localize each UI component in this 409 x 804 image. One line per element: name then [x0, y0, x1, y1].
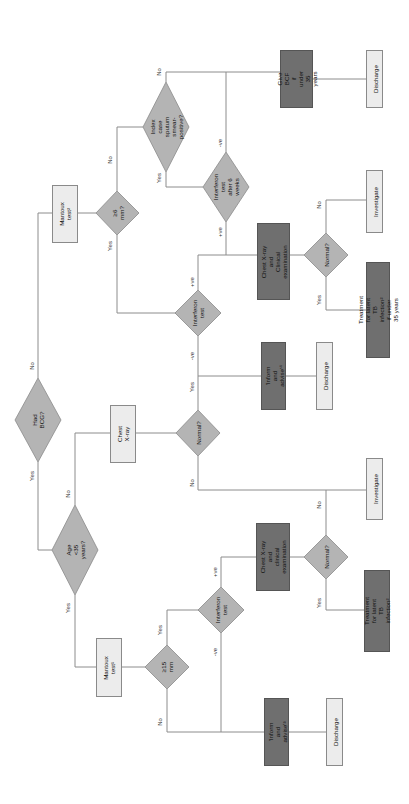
- box-label: Mantoux test¹: [102, 656, 116, 680]
- box-label: Chest X-ray and Clinical examination: [260, 245, 288, 278]
- edge-bcg-no: [38, 213, 52, 378]
- edge-bcg-yes: [38, 462, 52, 550]
- box-discharge-bottom: Discharge: [326, 698, 343, 766]
- flowchart-canvas: Had BCG? Age <35 years? ≥6 mm? Index cas…: [0, 0, 409, 804]
- box-inform-advise-bottom: 'Inform and advise'³: [264, 698, 289, 766]
- box-label: Discharge: [321, 362, 328, 390]
- edge-label-ifn-bottom-neg: -ve: [212, 648, 218, 656]
- box-label: Investigate: [371, 187, 378, 217]
- box-label: Mantoux test²: [58, 202, 72, 226]
- box-cxr-clinical-top: Chest X-ray and Clinical examination: [257, 223, 290, 300]
- decision-label: Interferon test: [214, 597, 228, 623]
- decision-normal-top: Normal?: [304, 233, 348, 277]
- decision-ge6: ≥6 mm?: [96, 191, 139, 235]
- decision-had-bcg: Had BCG?: [15, 378, 61, 462]
- decision-age-35: Age <35 years?: [52, 505, 98, 595]
- decision-ge15: ≥15 mm: [145, 645, 189, 689]
- decision-label: Interferon test after 6 weeks: [212, 174, 240, 200]
- box-label: Investigate: [371, 474, 378, 504]
- box-mantoux-test-1: Mantoux test¹: [96, 638, 122, 697]
- box-discharge-mid: Discharge: [316, 342, 333, 410]
- edge-label-normal-top-yes: Yes: [316, 295, 322, 305]
- box-label: Give BCF if under 35 years: [276, 71, 318, 87]
- box-investigate-mid: Investigate: [366, 458, 383, 520]
- box-label: Discharge: [371, 65, 378, 93]
- decision-interferon-mid: Interferon test: [175, 290, 221, 336]
- edge-label-normal-mid-yes: Yes: [189, 382, 195, 392]
- decision-label: Index case sputum smear- positive?: [149, 115, 184, 139]
- box-cxr-clinical-bottom: Chest X-ray and clinical examination: [256, 523, 290, 591]
- decision-label: Normal?: [195, 421, 202, 444]
- edge-label-ge15-no: No: [157, 718, 163, 726]
- edge-label-normal-mid-no: No: [189, 479, 195, 487]
- edge-label-ifn6-neg: -ve: [217, 139, 223, 147]
- decision-index-case: Index case sputum smear- positive?: [143, 82, 189, 172]
- decision-label: Normal?: [323, 545, 330, 568]
- edge-label-ge6-no: No: [107, 156, 113, 164]
- decision-normal-mid: Normal?: [176, 410, 220, 456]
- box-give-bcf: Give BCF if under 35 years: [280, 50, 313, 108]
- edge-label-ifn-mid-neg: -ve: [189, 352, 195, 360]
- box-label: Chest X-ray: [116, 426, 130, 442]
- decision-label: Age <35 years?: [65, 539, 86, 562]
- box-label: 'Inform and advise'³: [266, 721, 287, 742]
- box-chest-xray: Chest X-ray: [110, 405, 136, 463]
- decision-label: ≥15 mm: [160, 656, 174, 678]
- box-inform-advise-mid: 'Inform and advise'⁴: [261, 342, 286, 410]
- decision-normal-bottom: Normal?: [304, 535, 348, 579]
- edge-label-age-no: No: [65, 490, 71, 498]
- box-label: Discharge: [331, 718, 338, 746]
- edge-label-normal-top-no: No: [316, 201, 322, 209]
- decision-label: Interferon test: [191, 300, 205, 326]
- decision-label: Had BCG?: [31, 409, 45, 432]
- edge-label-ifn-bottom-pos: +ve: [212, 567, 218, 577]
- edge-label-age-yes: Yes: [65, 603, 71, 613]
- box-discharge-top: Discharge: [366, 50, 383, 108]
- decision-label: Normal?: [323, 243, 330, 266]
- edge-label-ifn-mid-pos: +ve: [189, 277, 195, 287]
- box-label: Treatment for latent TB infection²: [363, 597, 391, 625]
- edge-label-index-yes: Yes: [156, 173, 162, 183]
- edge-label-normal-bottom-no: No: [316, 501, 322, 509]
- connectors-layer: [0, 0, 409, 804]
- decision-interferon-bottom: Interferon test: [198, 587, 244, 633]
- box-mantoux-test-2: Mantoux test²: [52, 185, 78, 243]
- box-label: Treatment for latent TB infection² if un…: [357, 296, 399, 324]
- edge-label-normal-bottom-yes: Yes: [316, 598, 322, 608]
- edge-label-ifn6-pos: +ve: [217, 227, 223, 237]
- edge-label-ge6-yes: Yes: [107, 241, 113, 251]
- edge-label-bcg-yes: Yes: [29, 471, 35, 481]
- box-investigate-top: Investigate: [366, 170, 383, 233]
- edge-label-bcg-no: No: [29, 362, 35, 370]
- edge-label-index-no: No: [156, 68, 162, 76]
- edge-label-ge15-yes: Yes: [157, 625, 163, 635]
- box-label: 'Inform and advise'⁴: [263, 365, 284, 387]
- box-treatment-bottom: Treatment for latent TB infection²: [364, 570, 390, 652]
- decision-interferon-6wk: Interferon test after 6 weeks: [203, 152, 249, 222]
- decision-label: ≥6 mm?: [111, 202, 125, 224]
- box-treatment-top: Treatment for latent TB infection² if un…: [366, 262, 390, 358]
- box-label: Chest X-ray and clinical examination: [259, 540, 287, 573]
